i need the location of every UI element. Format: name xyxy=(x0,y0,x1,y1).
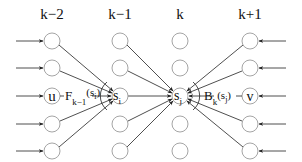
node xyxy=(172,33,188,49)
left-input-arrows xyxy=(16,41,43,151)
column-labels: k−2 k−1 k k+1 xyxy=(40,6,261,22)
node xyxy=(242,60,258,76)
node xyxy=(112,33,128,49)
trellis-diagram: k−2 k−1 k k+1 xyxy=(0,0,302,162)
forward-message-label: Fk−1(si) xyxy=(65,86,101,107)
node xyxy=(112,143,128,159)
column-label-k-minus-2: k−2 xyxy=(40,6,63,22)
node-v-label: v xyxy=(247,89,254,104)
node-u-label: u xyxy=(48,88,56,104)
node xyxy=(112,116,128,132)
column-label-k: k xyxy=(176,6,184,22)
node xyxy=(242,116,258,132)
node xyxy=(172,60,188,76)
node xyxy=(242,143,258,159)
forward-edges-to-sj xyxy=(127,45,173,147)
node xyxy=(44,116,60,132)
right-input-arrows xyxy=(259,41,286,151)
node xyxy=(112,60,128,76)
column-label-k-minus-1: k−1 xyxy=(108,6,131,22)
node xyxy=(44,60,60,76)
node xyxy=(242,33,258,49)
node xyxy=(172,143,188,159)
backward-edges-to-sj xyxy=(187,45,243,147)
node xyxy=(44,143,60,159)
column-label-k-plus-1: k+1 xyxy=(238,6,261,22)
node xyxy=(44,33,60,49)
backward-message-label: Bk(sj) xyxy=(204,88,231,107)
node xyxy=(172,116,188,132)
